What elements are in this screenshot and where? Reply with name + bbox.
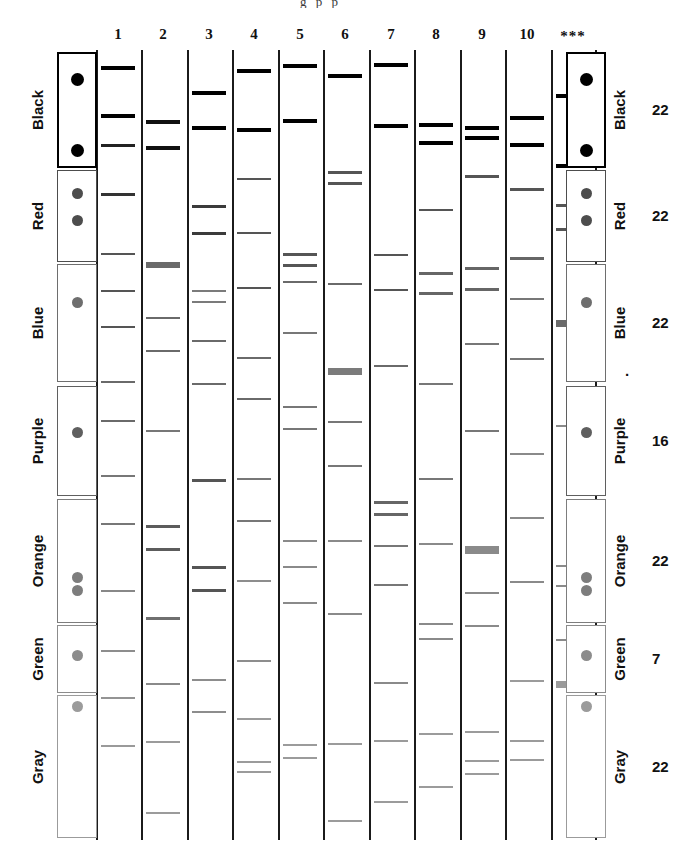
band <box>419 383 453 385</box>
band <box>101 523 135 525</box>
group-label-orange-left: Orange <box>28 506 48 616</box>
band <box>237 761 271 763</box>
band <box>237 771 271 773</box>
centromere-dot <box>581 701 592 712</box>
band <box>510 581 544 583</box>
centromere-dot <box>72 585 83 596</box>
band <box>465 288 499 291</box>
band <box>283 406 317 408</box>
chromosome-box-gray <box>566 695 606 838</box>
centromere-dot <box>581 215 592 226</box>
band <box>510 358 544 360</box>
band <box>419 478 453 480</box>
band <box>419 292 453 295</box>
band <box>328 182 362 185</box>
band <box>465 546 499 554</box>
group-count-purple: 16 <box>652 432 669 449</box>
band <box>146 548 180 551</box>
centromere-dot <box>72 188 83 199</box>
lane-rule <box>551 50 553 840</box>
lane-header-1: 1 <box>98 26 138 43</box>
band <box>146 525 180 528</box>
group-count-black: 22 <box>652 101 669 118</box>
band <box>465 773 499 775</box>
band <box>328 613 362 615</box>
band <box>328 283 362 285</box>
band <box>283 540 317 542</box>
group-count-red: 22 <box>652 207 669 224</box>
band <box>328 820 362 822</box>
band <box>101 193 135 196</box>
band <box>283 64 317 68</box>
band <box>465 126 499 130</box>
band <box>237 478 271 480</box>
centromere-dot <box>580 73 593 86</box>
band <box>192 479 226 482</box>
band <box>192 711 226 713</box>
band <box>101 326 135 328</box>
centromere-dot <box>581 427 592 438</box>
band <box>465 592 499 594</box>
band <box>510 143 544 147</box>
band <box>237 232 271 234</box>
band <box>101 475 135 477</box>
centromere-dot <box>581 585 592 596</box>
group-label-orange-right: Orange <box>610 506 630 616</box>
chromosome-box-orange <box>57 499 97 623</box>
chromosome-box-orange <box>566 499 606 623</box>
group-label-gray-right: Gray <box>610 712 630 822</box>
group-label-red-right: Red <box>610 161 630 271</box>
band <box>328 540 362 542</box>
band <box>146 262 180 268</box>
band <box>510 740 544 742</box>
band <box>192 589 226 592</box>
band <box>328 743 362 745</box>
band <box>146 741 180 743</box>
lane-rule <box>414 50 416 840</box>
group-label-gray-left: Gray <box>28 712 48 822</box>
group-label-green-right: Green <box>610 604 630 714</box>
band <box>374 501 408 504</box>
band <box>465 625 499 627</box>
band <box>146 120 180 124</box>
band <box>101 590 135 592</box>
band <box>146 683 180 685</box>
band <box>419 141 453 145</box>
band <box>419 123 453 127</box>
band <box>465 343 499 345</box>
group-count-green: 7 <box>652 650 660 667</box>
chromosome-box-purple <box>57 386 97 496</box>
band <box>192 205 226 208</box>
group-label-black-right: Black <box>610 55 630 165</box>
lane-rule <box>323 50 325 840</box>
group-count-orange: 22 <box>652 552 669 569</box>
group-label-purple-left: Purple <box>28 386 48 496</box>
lane-header-4: 4 <box>234 26 274 43</box>
band <box>192 383 226 385</box>
centromere-dot <box>72 297 83 308</box>
band <box>101 381 135 383</box>
group-count-blue: 22 <box>652 314 669 331</box>
centromere-dot <box>581 297 592 308</box>
chromosome-box-blue <box>566 264 606 382</box>
band <box>283 332 317 334</box>
lane-rule <box>460 50 462 840</box>
band <box>465 136 499 140</box>
band <box>192 301 226 303</box>
band <box>510 759 544 761</box>
band <box>237 287 271 289</box>
band <box>283 264 317 267</box>
band <box>374 801 408 803</box>
band <box>374 254 408 256</box>
band <box>101 745 135 747</box>
band <box>192 566 226 569</box>
gel-banding-figure: g p p 12345678910*** BlackRedBluePurpleO… <box>0 0 689 850</box>
centromere-dot <box>72 215 83 226</box>
band <box>374 63 408 67</box>
centromere-dot <box>581 650 592 661</box>
band <box>146 350 180 352</box>
band <box>374 289 408 291</box>
group-label-green-left: Green <box>28 604 48 714</box>
band <box>510 517 544 519</box>
lane-rule <box>141 50 143 840</box>
